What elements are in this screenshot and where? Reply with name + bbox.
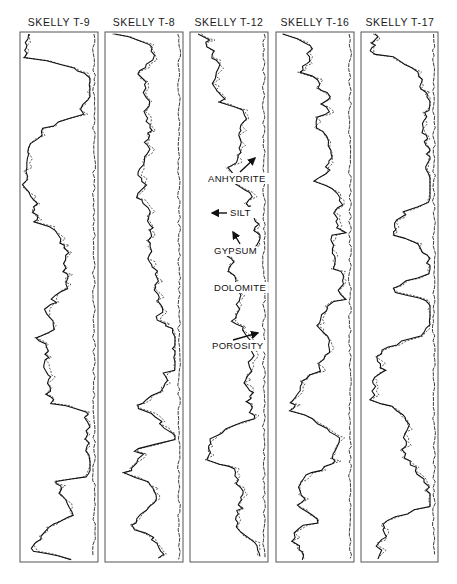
edge-log-curve-t17 [433,34,436,554]
annotation-silt: SILT [230,207,251,218]
annotation-dolomite: DOLOMITE [214,282,266,293]
dashed-log-curve-t8 [113,34,175,558]
solid-log-curve-t17 [370,34,430,559]
dashed-log-curve-t16 [283,34,346,560]
edge-log-curve-t12 [263,34,266,558]
edge-log-curve-t8 [178,34,181,559]
dashed-log-curve-t12 [202,34,261,556]
annotation-gypsum: GYPSUM [214,245,257,256]
log-panel-t16 [276,32,354,562]
arrow-icon [240,158,255,172]
solid-log-curve-t8 [115,34,175,558]
edge-log-curve-t9 [93,34,96,555]
well-log-panels: ANHYDRITESILTGYPSUMDOLOMITEPOROSITY [0,0,457,584]
arrow-icon [233,232,240,244]
dashed-log-curve-t9 [23,34,90,560]
log-panel-t9 [20,32,98,562]
edge-log-curve-t16 [349,34,352,558]
dashed-log-curve-t17 [370,34,430,559]
annotation-anhydrite: ANHYDRITE [208,173,266,184]
solid-log-curve-t12 [198,34,260,556]
solid-log-curve-t16 [283,34,346,560]
log-panel-t12 [190,32,268,562]
annotation-porosity: POROSITY [212,340,264,351]
